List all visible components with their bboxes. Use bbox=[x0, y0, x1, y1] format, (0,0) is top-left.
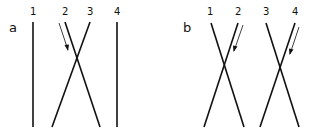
strand-3 bbox=[266, 23, 299, 127]
panel-b: b 1 2 3 4 bbox=[183, 6, 299, 127]
strand-crossing-diagram: a 1 2 3 4 b 1 2 3 4 bbox=[0, 0, 309, 134]
strand-2-label: 2 bbox=[235, 6, 241, 17]
strand-1-label: 1 bbox=[30, 6, 36, 17]
strand-3-label: 3 bbox=[263, 6, 269, 17]
arrow-icon bbox=[233, 25, 243, 52]
strand-2-label: 2 bbox=[62, 6, 68, 17]
strand-4 bbox=[260, 23, 295, 127]
panel-a: a 1 2 3 4 bbox=[9, 6, 120, 127]
strand-4-label: 4 bbox=[114, 6, 120, 17]
strand-3-label: 3 bbox=[87, 6, 93, 17]
strand-1 bbox=[211, 23, 244, 127]
panel-a-label: a bbox=[9, 20, 17, 35]
arrow-icon bbox=[289, 27, 299, 55]
strand-4-label: 4 bbox=[292, 6, 298, 17]
strand-1-label: 1 bbox=[207, 6, 213, 17]
strand-2 bbox=[204, 23, 238, 127]
diagram-svg: a 1 2 3 4 b 1 2 3 4 bbox=[0, 0, 309, 134]
panel-b-label: b bbox=[183, 20, 191, 35]
